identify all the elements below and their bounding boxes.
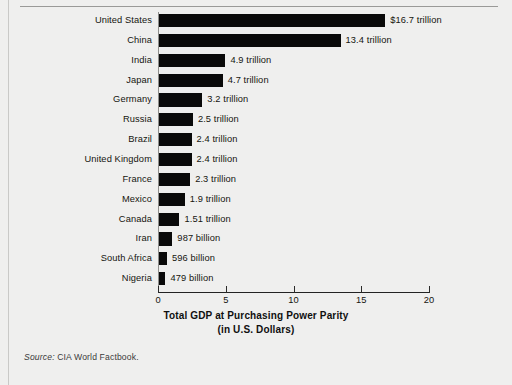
- bar-row: Nigeria479 billion: [0, 272, 512, 292]
- x-axis-tick: [158, 286, 159, 293]
- bar-value-label: 2.3 trillion: [195, 173, 236, 186]
- source-note: Source: CIA World Factbook.: [24, 352, 139, 362]
- bar-row: Iran987 billion: [0, 232, 512, 252]
- x-axis-title-line2: (in U.S. Dollars): [0, 323, 512, 337]
- bar-row: Mexico1.9 trillion: [0, 193, 512, 213]
- bar-value-label: 479 billion: [170, 272, 213, 285]
- bar-value-label: $16.7 trillion: [390, 14, 442, 27]
- bar: [159, 93, 202, 106]
- x-axis-tick-label: 0: [143, 294, 173, 306]
- bar: [159, 133, 192, 146]
- bar-row: United States$16.7 trillion: [0, 14, 512, 34]
- gdp-bar-chart-figure: United States$16.7 trillionChina13.4 tri…: [0, 0, 512, 385]
- bar: [159, 153, 192, 166]
- category-label: Mexico: [0, 193, 152, 206]
- bar-row: Brazil2.4 trillion: [0, 133, 512, 153]
- bar-value-label: 1.51 trillion: [184, 213, 230, 226]
- category-label: Brazil: [0, 133, 152, 146]
- x-axis-tick-label: 20: [414, 294, 444, 306]
- bar: [159, 252, 167, 265]
- x-axis-tick: [226, 286, 227, 293]
- bar: [159, 272, 165, 285]
- bar: [159, 14, 385, 27]
- bar: [159, 54, 225, 67]
- bar-row: Germany3.2 trillion: [0, 93, 512, 113]
- category-label: Nigeria: [0, 272, 152, 285]
- bar-row: United Kingdom2.4 trillion: [0, 153, 512, 173]
- bar-row: South Africa596 billion: [0, 252, 512, 272]
- bar-value-label: 4.7 trillion: [228, 74, 269, 87]
- category-label: Russia: [0, 113, 152, 126]
- x-axis-tick: [429, 286, 430, 293]
- x-axis-tick-label: 10: [279, 294, 309, 306]
- bar: [159, 173, 190, 186]
- x-axis-tick-label: 5: [211, 294, 241, 306]
- category-label: United States: [0, 14, 152, 27]
- category-label: United Kingdom: [0, 153, 152, 166]
- bar-row: Russia2.5 trillion: [0, 113, 512, 133]
- category-label: France: [0, 173, 152, 186]
- bar: [159, 193, 185, 206]
- bar-value-label: 2.4 trillion: [197, 133, 238, 146]
- source-label: Source:: [24, 352, 55, 362]
- category-label: India: [0, 54, 152, 67]
- bar-value-label: 2.5 trillion: [198, 113, 239, 126]
- plot-area: United States$16.7 trillionChina13.4 tri…: [0, 0, 512, 300]
- x-axis-tick-label: 15: [346, 294, 376, 306]
- bar: [159, 34, 341, 47]
- category-label: Canada: [0, 213, 152, 226]
- category-label: China: [0, 34, 152, 47]
- bar-value-label: 1.9 trillion: [190, 193, 231, 206]
- bar-row: China13.4 trillion: [0, 34, 512, 54]
- bar-value-label: 596 billion: [172, 252, 215, 265]
- bar-row: France2.3 trillion: [0, 173, 512, 193]
- category-label: Germany: [0, 93, 152, 106]
- category-label: South Africa: [0, 252, 152, 265]
- bar-value-label: 13.4 trillion: [346, 34, 392, 47]
- x-axis-title-line1: Total GDP at Purchasing Power Parity: [163, 310, 348, 321]
- bar-row: Japan4.7 trillion: [0, 74, 512, 94]
- x-axis-title: Total GDP at Purchasing Power Parity (in…: [0, 309, 512, 336]
- source-value: CIA World Factbook.: [55, 352, 139, 362]
- bar: [159, 232, 172, 245]
- bar: [159, 74, 223, 87]
- bar-value-label: 4.9 trillion: [230, 54, 271, 67]
- x-axis-tick: [361, 286, 362, 293]
- bar-value-label: 2.4 trillion: [197, 153, 238, 166]
- category-label: Iran: [0, 232, 152, 245]
- bar: [159, 113, 193, 126]
- x-axis-tick: [294, 286, 295, 293]
- bar-row: India4.9 trillion: [0, 54, 512, 74]
- bar: [159, 213, 179, 226]
- bar-value-label: 3.2 trillion: [207, 93, 248, 106]
- bar-row: Canada1.51 trillion: [0, 213, 512, 233]
- category-label: Japan: [0, 74, 152, 87]
- bar-value-label: 987 billion: [177, 232, 220, 245]
